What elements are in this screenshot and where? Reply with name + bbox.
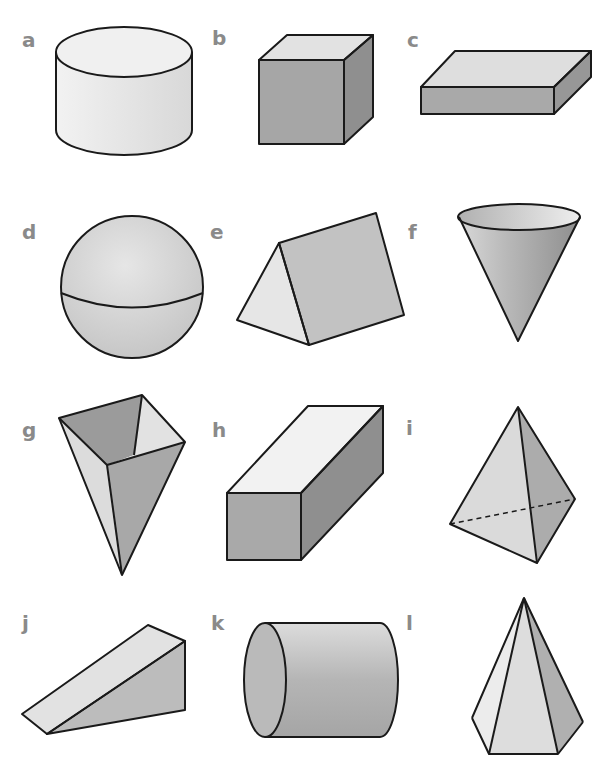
shape-b-cube [259, 35, 373, 144]
shape-h-long-cuboid [227, 406, 383, 560]
shape-a-cylinder [56, 27, 192, 155]
shapes-canvas [0, 0, 602, 781]
shape-i-tetrahedron [450, 407, 575, 563]
shape-g-inverted-pyramid [59, 395, 185, 575]
shape-c-slab [421, 51, 591, 114]
shape-f-cone [458, 204, 580, 341]
shape-d-sphere [61, 216, 203, 358]
shape-k-cylinder-horizontal [244, 623, 398, 737]
shape-e-triangular-prism [237, 213, 404, 345]
shape-j-wedge [22, 625, 185, 734]
shape-l-hexagonal-pyramid [472, 598, 583, 754]
